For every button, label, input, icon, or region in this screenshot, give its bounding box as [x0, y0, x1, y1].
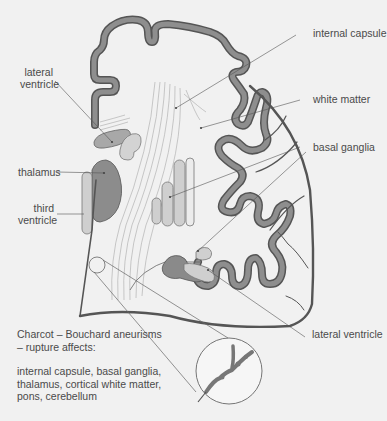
note-line-4: thalamus, cortical white matter, — [17, 378, 162, 391]
charcot-bouchard-note: Charcot – Bouchard aneurisms – rupture a… — [17, 328, 162, 403]
label-lateral-ventricle-top-line1: lateral — [20, 66, 53, 78]
label-internal-capsule: internal capsule — [313, 27, 387, 39]
aneurism-magnified-view — [196, 338, 262, 404]
aneurism-site-marker — [89, 257, 105, 273]
label-white-matter: white matter — [313, 93, 370, 105]
note-line-3: internal capsule, basal ganglia, — [17, 365, 162, 378]
caudate-tail — [196, 248, 212, 261]
thalamus — [92, 160, 122, 222]
note-line-5: pons, cerebellum — [17, 390, 162, 403]
label-basal-ganglia: basal ganglia — [313, 141, 375, 153]
label-third-ventricle-line1: third — [18, 202, 54, 214]
label-lateral-ventricle-bottom: lateral ventricle — [312, 328, 383, 340]
basal-ganglia — [152, 158, 194, 226]
label-lateral-ventricle-top: lateral ventricle — [20, 66, 53, 90]
label-thalamus: thalamus — [18, 166, 61, 178]
third-ventricle — [82, 172, 92, 234]
note-line-1: Charcot – Bouchard aneurisms — [17, 328, 162, 341]
label-third-ventricle: third ventricle — [18, 202, 54, 226]
label-third-ventricle-line2: ventricle — [18, 214, 54, 226]
label-lateral-ventricle-top-line2: ventricle — [20, 78, 53, 90]
note-line-2: – rupture affects: — [17, 341, 162, 354]
